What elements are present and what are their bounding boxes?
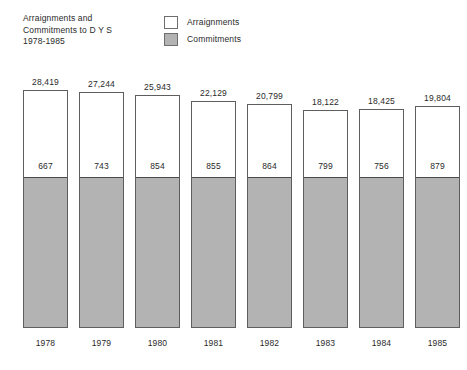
bar-total-label: 22,129 bbox=[191, 88, 236, 98]
bar-arraignments[interactable] bbox=[23, 90, 68, 328]
bar-commitments-label: 756 bbox=[359, 161, 404, 171]
bar-arraignments[interactable] bbox=[247, 104, 292, 328]
bar-commitments[interactable] bbox=[24, 177, 67, 327]
bar-commitments[interactable] bbox=[248, 177, 291, 327]
bar-commitments[interactable] bbox=[416, 177, 459, 327]
bar-arraignments[interactable] bbox=[359, 109, 404, 328]
x-axis-tick-label: 1982 bbox=[247, 338, 292, 348]
bar-total-label: 25,943 bbox=[135, 82, 180, 92]
bar-commitments[interactable] bbox=[80, 177, 123, 327]
x-axis-tick-label: 1983 bbox=[303, 338, 348, 348]
bar-arraignments[interactable] bbox=[135, 95, 180, 328]
bar-commitments[interactable] bbox=[136, 177, 179, 327]
bar-total-label: 20,799 bbox=[247, 91, 292, 101]
bar-commitments-label: 855 bbox=[191, 161, 236, 171]
bar-commitments[interactable] bbox=[360, 177, 403, 327]
plot-area: 28,419667197827,244743197925,94385419802… bbox=[0, 0, 467, 370]
bar-commitments[interactable] bbox=[192, 177, 235, 327]
x-axis-tick-label: 1984 bbox=[359, 338, 404, 348]
bar-total-label: 19,804 bbox=[415, 93, 460, 103]
x-axis-tick-label: 1985 bbox=[415, 338, 460, 348]
bar-commitments-label: 799 bbox=[303, 161, 348, 171]
bar-commitments-label: 854 bbox=[135, 161, 180, 171]
bar-arraignments[interactable] bbox=[415, 106, 460, 328]
bar-total-label: 18,122 bbox=[303, 97, 348, 107]
bar-total-label: 28,419 bbox=[23, 77, 68, 87]
bar-arraignments[interactable] bbox=[79, 92, 124, 328]
bar-commitments-label: 864 bbox=[247, 161, 292, 171]
bar-commitments-label: 743 bbox=[79, 161, 124, 171]
x-axis-tick-label: 1979 bbox=[79, 338, 124, 348]
bar-arraignments[interactable] bbox=[191, 101, 236, 328]
chart-page: Arraignments and Commitments to D Y S 19… bbox=[0, 0, 467, 370]
bar-total-label: 27,244 bbox=[79, 79, 124, 89]
bar-commitments-label: 667 bbox=[23, 161, 68, 171]
x-axis-tick-label: 1978 bbox=[23, 338, 68, 348]
x-axis-tick-label: 1980 bbox=[135, 338, 180, 348]
bar-arraignments[interactable] bbox=[303, 110, 348, 328]
bar-total-label: 18,425 bbox=[359, 96, 404, 106]
x-axis-tick-label: 1981 bbox=[191, 338, 236, 348]
bar-commitments-label: 879 bbox=[415, 161, 460, 171]
bar-commitments[interactable] bbox=[304, 177, 347, 327]
